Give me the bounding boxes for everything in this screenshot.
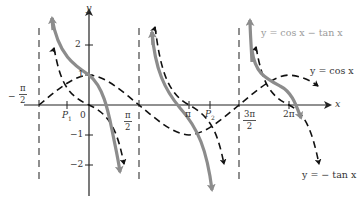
- x-tick-pi: π: [185, 110, 191, 119]
- x-axis-label: x: [335, 99, 340, 109]
- y-tick-neg-1: −1: [70, 130, 83, 139]
- neg-tan-curve-branch-2: [155, 27, 224, 164]
- label-cos-curve: y = cos x: [310, 66, 354, 76]
- label-sum-curve: y = cos x − tan x: [261, 28, 343, 38]
- sum-curve-branch-2: [152, 32, 212, 190]
- graph-figure: y x 2 1 −1 −2 − π 2 P1 0 π 2 π P2 3π 2 2…: [0, 0, 363, 200]
- x-tick-pi-half: π 2: [124, 111, 132, 131]
- x-tick-p2: P2: [205, 110, 215, 121]
- x-tick-two-pi: 2π: [283, 110, 295, 119]
- x-tick-zero: 0: [80, 111, 86, 120]
- label-neg-tan-curve: y = − tan x: [302, 170, 356, 180]
- x-tick-p1: P1: [62, 111, 72, 122]
- y-tick-neg-2: −2: [70, 160, 83, 169]
- y-tick-1: 1: [78, 70, 84, 79]
- x-tick-neg-pi-half-sign: −: [8, 92, 16, 101]
- sum-curve-branch-3-top: [250, 20, 252, 62]
- y-axis-label: y: [86, 3, 91, 13]
- x-tick-three-pi-half: 3π 2: [243, 110, 256, 130]
- x-tick-neg-pi-half: π 2: [19, 84, 27, 104]
- y-tick-2: 2: [75, 40, 81, 49]
- sum-curve-branch-1: [52, 18, 120, 172]
